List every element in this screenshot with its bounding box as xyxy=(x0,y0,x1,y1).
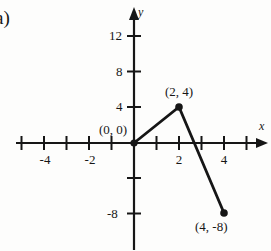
part-marker: a) xyxy=(0,8,10,27)
x-tick-label-neg2: -2 xyxy=(85,153,96,166)
data-point-endpoint xyxy=(220,209,228,217)
y-tick-label-8: 8 xyxy=(116,65,123,78)
y-tick-label-12: 12 xyxy=(109,29,122,42)
annotation-endpoint: (4, -8) xyxy=(195,220,228,233)
annotation-vertex: (2, 4) xyxy=(165,85,193,98)
graph-figure: a) y x -4 -2 2 4 12 8 4 -8 (0, 0) (2, 4)… xyxy=(0,0,271,251)
y-axis xyxy=(127,7,141,250)
annotation-origin: (0, 0) xyxy=(99,123,127,136)
data-point-origin xyxy=(130,139,137,146)
x-tick-label-2: 2 xyxy=(176,153,183,166)
y-tick-label-4: 4 xyxy=(116,100,123,113)
coordinate-plane-svg xyxy=(0,0,271,251)
data-point-vertex xyxy=(175,103,183,111)
x-axis-label: x xyxy=(259,120,264,132)
y-tick-label-neg8: -8 xyxy=(107,207,118,220)
x-tick-label-neg4: -4 xyxy=(40,153,51,166)
y-axis-label: y xyxy=(138,6,143,18)
x-tick-label-4: 4 xyxy=(221,153,228,166)
